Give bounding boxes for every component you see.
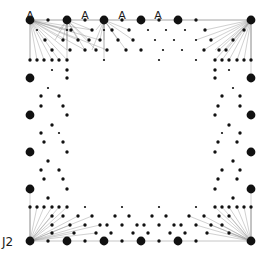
graph-node (72, 231, 75, 234)
graph-node (65, 205, 68, 208)
graph-node (50, 58, 53, 61)
fan-edge (30, 20, 63, 40)
fan-edge (204, 20, 251, 50)
graph-node (39, 168, 42, 171)
graph-node (105, 48, 108, 51)
graph-node (61, 214, 64, 217)
corner-node-label-0: J2 (2, 236, 13, 248)
graph-node (216, 140, 219, 143)
graph-node (94, 48, 97, 51)
graph-node (202, 48, 205, 51)
graph-node (46, 239, 49, 242)
graph-node (61, 104, 64, 107)
graph-node (57, 168, 60, 171)
graph-node (100, 237, 109, 246)
graph-node (50, 205, 53, 208)
graph-node (203, 28, 206, 31)
graph-node (46, 159, 49, 162)
graph-node (217, 48, 220, 51)
graph-node (26, 111, 35, 120)
graph-node (221, 132, 223, 134)
fan-edge (237, 207, 251, 241)
graph-node (232, 87, 234, 89)
graph-node (94, 231, 97, 234)
graph-node (231, 159, 234, 162)
graph-node (26, 237, 35, 246)
graph-node (65, 150, 68, 153)
graph-node (131, 38, 134, 41)
graph-node (98, 38, 101, 41)
graph-node (220, 205, 223, 208)
graph-node (39, 104, 42, 107)
graph-node (65, 58, 68, 61)
graph-node (50, 214, 53, 217)
graph-node (50, 48, 53, 51)
graph-node (213, 76, 216, 79)
graph-node (26, 185, 35, 194)
graph-node (120, 223, 123, 226)
graph-node (224, 48, 227, 51)
graph-node (50, 123, 53, 126)
graph-node (168, 231, 171, 234)
top-node-label-2: A (118, 10, 126, 21)
graph-node (238, 168, 241, 171)
graph-node (50, 223, 53, 226)
graph-node (66, 29, 68, 31)
graph-node (35, 205, 38, 208)
fan-edge (219, 20, 251, 50)
graph-node (247, 185, 256, 194)
graph-node (227, 58, 230, 61)
graph-node (173, 39, 175, 41)
graph-node (109, 231, 112, 234)
graph-node (35, 58, 38, 61)
graph-node (65, 76, 68, 79)
graph-node (150, 214, 153, 217)
graph-node (213, 58, 216, 61)
fan-edge (92, 20, 104, 50)
graph-plot-svg (0, 0, 273, 270)
graph-node (235, 58, 238, 61)
graph-node (216, 104, 219, 107)
graph-node (28, 58, 31, 61)
graph-node (158, 59, 160, 61)
graph-node (46, 18, 49, 21)
fan-edge (219, 216, 251, 241)
graph-node (194, 18, 197, 21)
graph-node (213, 187, 216, 190)
graph-node (209, 223, 212, 226)
graph-node (227, 123, 230, 126)
graph-node (242, 28, 245, 31)
graph-node (103, 59, 105, 61)
graph-node (105, 223, 108, 226)
graph-node (220, 223, 223, 226)
graph-node (127, 214, 130, 217)
graph-node (127, 28, 130, 31)
graph-node (26, 148, 35, 157)
graph-node (249, 58, 252, 61)
graph-node (157, 223, 160, 226)
graph-node (158, 206, 160, 208)
graph-node (100, 16, 109, 25)
fan-edge (30, 20, 107, 50)
graph-node (61, 38, 64, 41)
graph-node (137, 237, 146, 246)
graph-node (43, 38, 46, 41)
graph-node (90, 214, 93, 217)
graph-node (124, 48, 127, 51)
graph-node (238, 131, 241, 134)
graph-node (69, 28, 72, 31)
graph-node (231, 196, 234, 199)
graph-node (68, 48, 71, 51)
graph-node (110, 28, 113, 31)
graph-node (195, 59, 197, 61)
graph-node (139, 48, 142, 51)
graph-node (247, 111, 256, 120)
graph-node (187, 214, 190, 217)
graph-node (76, 214, 79, 217)
graph-node (227, 205, 230, 208)
edges-layer (30, 20, 251, 241)
graph-node (247, 16, 256, 25)
graph-node (227, 231, 230, 234)
graph-node (90, 28, 93, 31)
graph-node (65, 113, 68, 116)
